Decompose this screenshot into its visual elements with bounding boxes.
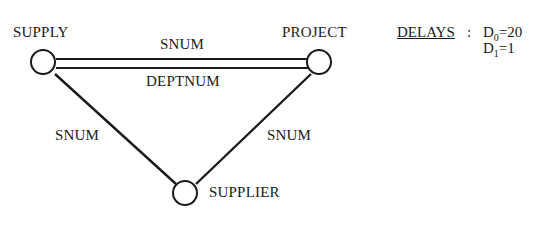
delays-title: DELAYS (397, 24, 455, 41)
node-label-supply: SUPPLY (13, 24, 69, 41)
edge-label-deptnum: DEPTNUM (146, 73, 220, 90)
node-project (306, 49, 332, 75)
node-label-project: PROJECT (282, 24, 347, 41)
delays-colon: : (467, 24, 471, 41)
edge-label-snum-top: SNUM (160, 36, 204, 53)
query-graph-diagram: SUPPLY PROJECT SUPPLIER SNUM DEPTNUM SNU… (0, 0, 552, 227)
node-label-supplier: SUPPLIER (209, 184, 280, 201)
edge-label-snum-left: SNUM (55, 127, 99, 144)
node-supply (30, 49, 56, 75)
edge-label-snum-right: SNUM (267, 127, 311, 144)
node-supplier (172, 180, 198, 206)
delay-d1: D1=1 (483, 40, 515, 59)
